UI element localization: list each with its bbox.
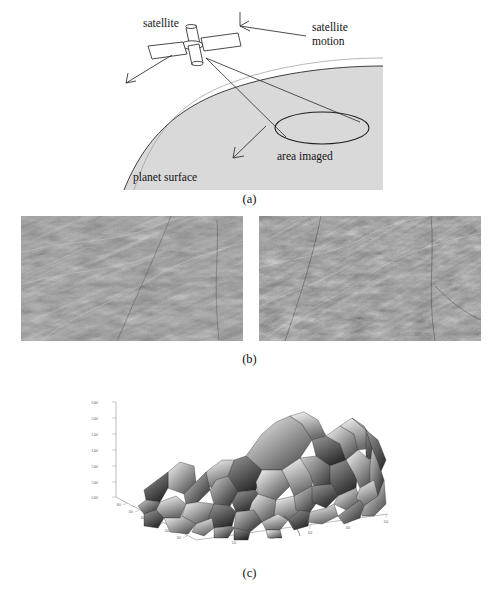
svg-text:500: 500 (384, 520, 389, 524)
label-satellite-motion-line2: motion (312, 35, 345, 47)
caption-panel-c: (c) (0, 566, 499, 581)
label-area-imaged: area imaged (277, 150, 333, 163)
svg-text:600: 600 (117, 503, 122, 507)
satellite-upper-cap (186, 25, 196, 29)
svg-text:100: 100 (177, 536, 182, 540)
label-planet-surface: planet surface (133, 171, 197, 184)
satellite-motion-arrow (240, 12, 306, 36)
z-axis-tick-labels: 6.000 5.000 4.000 3.000 2.000 1.000 0.00… (92, 401, 99, 500)
svg-text:2.000: 2.000 (92, 465, 99, 469)
svg-text:3.000: 3.000 (92, 449, 99, 453)
svg-text:100: 100 (232, 541, 237, 545)
caption-panel-b: (b) (0, 352, 499, 367)
surface-mesh (138, 412, 386, 540)
svg-text:4.000: 4.000 (92, 433, 99, 437)
sar-image-right (259, 216, 481, 341)
solar-panel-right (201, 33, 241, 51)
label-satellite: satellite (143, 17, 179, 29)
svg-text:6.000: 6.000 (92, 401, 99, 405)
svg-text:400: 400 (346, 526, 351, 530)
caption-panel-a: (a) (0, 192, 499, 207)
panel-a-satellite-diagram: satellite satellite motion area imaged p… (0, 0, 499, 190)
svg-text:1.000: 1.000 (92, 481, 99, 485)
label-satellite-motion-line1: satellite (312, 21, 348, 33)
motion-arrow-left (126, 55, 172, 83)
figure-root: satellite satellite motion area imaged p… (0, 0, 499, 594)
panel-c-surface-plot: 6.000 5.000 4.000 3.000 2.000 1.000 0.00… (0, 386, 499, 566)
solar-panel-left (148, 42, 187, 59)
svg-text:500: 500 (129, 510, 134, 514)
panel-b-sar-images (0, 216, 499, 346)
svg-text:0.000: 0.000 (92, 496, 99, 500)
z-axis-ticks (112, 402, 116, 497)
sar-image-left (21, 216, 243, 341)
svg-text:5.000: 5.000 (92, 417, 99, 421)
svg-text:300: 300 (308, 531, 313, 535)
satellite-lower-cap (192, 61, 203, 65)
